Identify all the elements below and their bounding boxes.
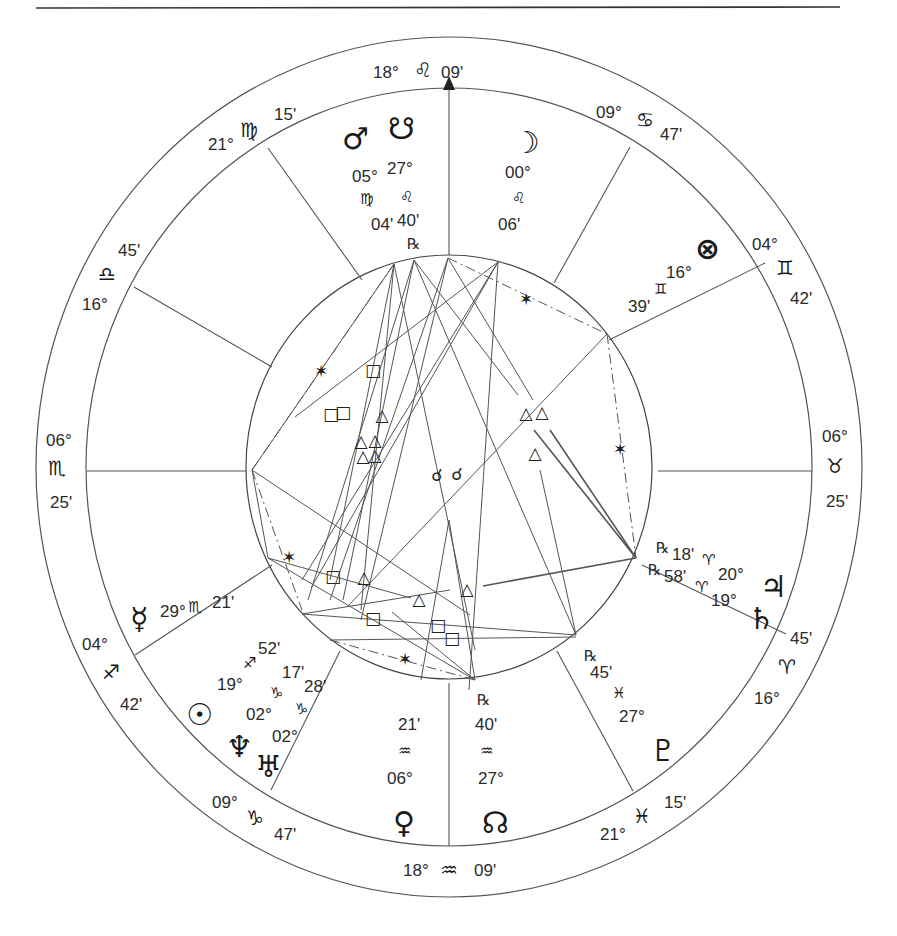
trine-aspect-icon: △ bbox=[368, 447, 381, 464]
trine-aspect-icon: △ bbox=[535, 404, 548, 421]
cancer-icon: ♋ bbox=[636, 110, 654, 130]
cusp-minute: 15' bbox=[274, 106, 296, 123]
planet-degree: 27° bbox=[387, 160, 413, 177]
aquarius-icon: ♒ bbox=[440, 860, 458, 880]
trine-aspect-icon: △ bbox=[375, 407, 388, 424]
sagittarius-icon: ♐ bbox=[102, 662, 120, 682]
cusp-degree: 09° bbox=[212, 794, 238, 811]
planet-degree: 20° bbox=[718, 566, 744, 583]
planet-minute: 17' bbox=[282, 664, 304, 681]
leo-icon: ♌ bbox=[512, 191, 525, 206]
jupiter-icon: ♃ bbox=[760, 572, 787, 602]
cusp-minute: 25' bbox=[826, 493, 848, 510]
libra-icon: ♎ bbox=[98, 264, 116, 284]
sextile-aspect-icon: ✶ bbox=[398, 651, 412, 668]
cusp-minute: 47' bbox=[660, 126, 682, 143]
scorpio-icon: ♏ bbox=[48, 458, 66, 478]
planet-degree: 16° bbox=[666, 264, 692, 281]
cusp-degree: 06° bbox=[46, 432, 72, 449]
neptune-icon: ♆ bbox=[226, 732, 253, 762]
cusp-degree: 18° bbox=[373, 64, 399, 81]
retrograde-icon: ℞ bbox=[407, 236, 420, 251]
mars-icon: ♂ bbox=[342, 124, 369, 154]
square-aspect-icon: □ bbox=[325, 568, 341, 585]
virgo-icon: ♍ bbox=[240, 120, 258, 140]
venus-icon: ♀ bbox=[393, 808, 415, 838]
aries-icon: ♈ bbox=[695, 580, 708, 595]
planet-minute: 40' bbox=[475, 716, 497, 733]
cusp-degree: 21° bbox=[208, 136, 234, 153]
aspect-circle bbox=[246, 255, 652, 679]
uranus-icon: ♅ bbox=[255, 752, 282, 782]
retrograde-icon: ℞ bbox=[477, 692, 490, 707]
aries-icon: ♈ bbox=[702, 553, 715, 568]
saturn-icon: ♄ bbox=[748, 604, 775, 634]
sextile-aspect-icon: ✶ bbox=[613, 441, 627, 458]
sagittarius-icon: ♐ bbox=[243, 656, 256, 671]
north-node-icon: ☊ bbox=[482, 808, 509, 838]
aspect-dashed-lines bbox=[252, 258, 636, 610]
planet-degree: 06° bbox=[387, 770, 413, 787]
cusp-degree: 21° bbox=[600, 826, 626, 843]
planet-degree: 19° bbox=[711, 592, 737, 609]
planet-degree: 02° bbox=[246, 706, 272, 723]
taurus-icon: ♉ bbox=[826, 456, 844, 476]
sextile-aspect-icon: ✶ bbox=[282, 549, 296, 566]
planet-minute: 40' bbox=[397, 212, 419, 229]
planet-degree: 29° bbox=[160, 603, 186, 620]
square-aspect-icon: □ bbox=[335, 404, 351, 421]
aries-icon: ♈ bbox=[778, 657, 796, 677]
square-aspect-icon: □ bbox=[365, 362, 381, 379]
trine-aspect-icon: △ bbox=[460, 581, 473, 598]
top-rule bbox=[36, 7, 840, 8]
cusp-minute: 42' bbox=[790, 290, 812, 307]
cusp-minute: 15' bbox=[664, 794, 686, 811]
leo-icon: ♌ bbox=[414, 60, 432, 80]
part-of-fortune-icon: ⊗ bbox=[695, 234, 720, 264]
cusp-degree: 18° bbox=[403, 862, 429, 879]
sextile-aspect-icon: ✶ bbox=[314, 363, 328, 380]
leo-icon: ♌ bbox=[400, 190, 413, 205]
aquarius-icon: ♒ bbox=[398, 744, 411, 759]
trine-aspect-icon: △ bbox=[412, 591, 425, 608]
mercury-icon: ☿ bbox=[130, 604, 148, 634]
capricorn-icon: ♑ bbox=[246, 808, 264, 828]
cusp-degree: 04° bbox=[82, 636, 108, 653]
planet-degree: 00° bbox=[505, 164, 531, 181]
cusp-minute: 45' bbox=[790, 630, 812, 647]
scorpio-icon: ♏ bbox=[188, 600, 201, 615]
planet-minute: 52' bbox=[258, 640, 280, 657]
natal-chart-wheel bbox=[0, 0, 897, 936]
sextile-aspect-icon: ✶ bbox=[519, 291, 533, 308]
trine-aspect-icon: △ bbox=[528, 445, 541, 462]
square-aspect-icon: □ bbox=[365, 610, 381, 627]
virgo-icon: ♍ bbox=[360, 192, 373, 207]
pisces-icon: ♓ bbox=[612, 686, 625, 701]
planet-minute: 21' bbox=[398, 716, 420, 733]
conjunction-aspect-icon: ☌ bbox=[431, 467, 442, 484]
cusp-minute: 09' bbox=[441, 64, 463, 81]
cusp-minute: 42' bbox=[120, 696, 142, 713]
cusp-degree: 06° bbox=[822, 428, 848, 445]
planet-degree: 19° bbox=[217, 676, 243, 693]
gemini-icon: ♊ bbox=[654, 282, 667, 297]
cusp-degree: 09° bbox=[596, 104, 622, 121]
cusp-degree: 04° bbox=[752, 236, 778, 253]
pluto-icon: ♇ bbox=[650, 736, 677, 766]
cusp-degree: 16° bbox=[754, 690, 780, 707]
planet-minute: 39' bbox=[628, 298, 650, 315]
planet-minute: 04' bbox=[371, 216, 393, 233]
retrograde-icon: ℞ bbox=[648, 562, 661, 577]
planet-degree: 05° bbox=[352, 168, 378, 185]
planet-minute: 58' bbox=[664, 568, 686, 585]
planet-minute: 28' bbox=[304, 678, 326, 695]
cusp-minute: 25' bbox=[50, 494, 72, 511]
trine-aspect-icon: △ bbox=[519, 405, 532, 422]
capricorn-icon: ♑ bbox=[295, 702, 308, 717]
gemini-icon: ♊ bbox=[776, 258, 794, 278]
planet-degree: 02° bbox=[272, 728, 298, 745]
aquarius-icon: ♒ bbox=[480, 744, 493, 759]
planet-degree: 27° bbox=[619, 708, 645, 725]
planet-minute: 45' bbox=[590, 664, 612, 681]
sun-icon: ☉ bbox=[186, 700, 213, 730]
